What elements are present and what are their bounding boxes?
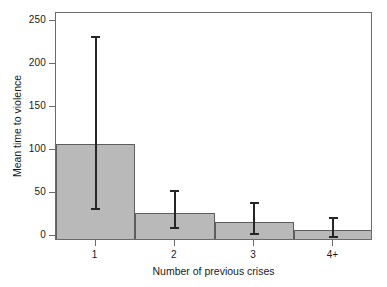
y-axis-title: Mean time to violence: [10, 12, 24, 240]
error-bar: [253, 202, 255, 233]
clipped-caption: [18, 281, 370, 286]
x-tick-label: 4+: [312, 249, 352, 260]
error-bar: [332, 217, 334, 236]
plot-frame: [55, 12, 372, 240]
error-bar-cap-upper: [250, 202, 259, 204]
x-tick-label: 2: [154, 249, 194, 260]
x-tick-label: 1: [75, 249, 115, 260]
y-tick-label: 250: [29, 15, 46, 25]
error-bar-cap-lower: [91, 208, 100, 210]
error-bar-cap-lower: [250, 233, 259, 235]
y-tick-label: 200: [29, 58, 46, 68]
x-tick-label: 3: [233, 249, 273, 260]
error-bar-cap-lower: [170, 227, 179, 229]
error-bar-cap-upper: [170, 190, 179, 192]
error-bar-cap-upper: [91, 36, 100, 38]
x-tick-mark: [253, 240, 254, 246]
y-tick-label: 100: [29, 144, 46, 154]
x-tick-mark: [174, 240, 175, 246]
error-bar-cap-lower: [329, 236, 338, 238]
error-bar: [174, 190, 176, 226]
x-tick-mark: [95, 240, 96, 246]
y-tick-label: 150: [29, 101, 46, 111]
x-tick-mark: [332, 240, 333, 246]
chart-figure: 050100150200250 1234+ Number of previous…: [0, 0, 387, 287]
x-axis-title: Number of previous crises: [55, 265, 372, 277]
error-bar: [95, 36, 97, 208]
plot-area: [56, 13, 371, 239]
y-tick-label: 50: [34, 187, 46, 197]
error-bar-cap-upper: [329, 217, 338, 219]
y-tick-label: 0: [40, 230, 46, 240]
